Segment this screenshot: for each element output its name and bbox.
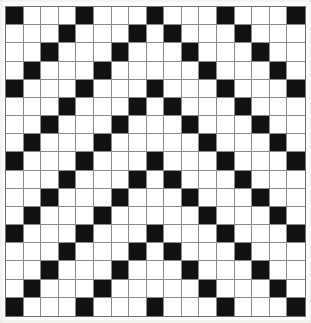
grid-cell (182, 116, 200, 134)
grid-cell (76, 171, 94, 189)
grid-cell (199, 43, 217, 61)
grid-cell (217, 261, 235, 279)
grid-cell (217, 43, 235, 61)
grid-cell (199, 298, 217, 316)
grid-cell (59, 25, 77, 43)
grid-cell (41, 134, 59, 152)
grid-cell (76, 134, 94, 152)
grid-cell (6, 7, 24, 25)
grid-cell (147, 80, 165, 98)
grid-cell (129, 62, 147, 80)
grid-cell (59, 261, 77, 279)
grid-cell (217, 116, 235, 134)
grid-cell (270, 80, 288, 98)
grid-cell (182, 62, 200, 80)
grid-cell (129, 7, 147, 25)
grid-cell (182, 43, 200, 61)
grid-cell (270, 25, 288, 43)
grid-cell (24, 171, 42, 189)
grid-cell (164, 7, 182, 25)
grid-cell (235, 298, 253, 316)
grid-cell (164, 116, 182, 134)
grid-cell (76, 261, 94, 279)
grid-cell (217, 225, 235, 243)
grid-cell (94, 43, 112, 61)
grid-cell (235, 261, 253, 279)
grid-cell (6, 80, 24, 98)
grid-cell (24, 261, 42, 279)
grid-cell (164, 152, 182, 170)
grid-cell (235, 152, 253, 170)
grid-cell (182, 243, 200, 261)
grid-cell (199, 134, 217, 152)
grid-cell (6, 62, 24, 80)
grid-cell (217, 189, 235, 207)
grid-cell (147, 298, 165, 316)
grid-cell (235, 280, 253, 298)
grid-cell (199, 116, 217, 134)
grid-cell (129, 207, 147, 225)
grid-cell (59, 189, 77, 207)
grid-cell (41, 243, 59, 261)
grid-cell (94, 280, 112, 298)
grid-cell (199, 189, 217, 207)
grid-cell (217, 25, 235, 43)
grid-cell (199, 225, 217, 243)
grid-cell (287, 43, 305, 61)
grid-cell (24, 134, 42, 152)
grid-cell (199, 171, 217, 189)
grid-cell (182, 189, 200, 207)
grid-cell (94, 225, 112, 243)
grid-cell (199, 98, 217, 116)
grid-cell (112, 43, 130, 61)
grid-cell (76, 152, 94, 170)
grid-cell (94, 189, 112, 207)
grid-cell (76, 280, 94, 298)
grid-cell (24, 98, 42, 116)
grid-cell (129, 298, 147, 316)
grid-cell (287, 152, 305, 170)
grid-cell (24, 243, 42, 261)
grid-cell (235, 225, 253, 243)
grid-cell (270, 43, 288, 61)
grid-cell (287, 80, 305, 98)
grid-cell (199, 80, 217, 98)
grid-cell (287, 98, 305, 116)
grid-cell (129, 98, 147, 116)
grid-cell (182, 7, 200, 25)
grid-cell (252, 243, 270, 261)
grid-cell (182, 134, 200, 152)
grid-cell (199, 152, 217, 170)
grid-cell (24, 280, 42, 298)
grid-cell (199, 280, 217, 298)
grid-cell (129, 225, 147, 243)
grid-cell (129, 152, 147, 170)
grid-cell (287, 261, 305, 279)
grid-cell (217, 207, 235, 225)
grid-cell (199, 62, 217, 80)
grid-cell (112, 298, 130, 316)
grid-cell (270, 261, 288, 279)
grid-cell (252, 189, 270, 207)
grid-cell (6, 116, 24, 134)
grid-cell (164, 207, 182, 225)
grid-cell (94, 98, 112, 116)
grid-cell (24, 7, 42, 25)
grid-cell (287, 134, 305, 152)
grid-cell (252, 80, 270, 98)
grid-cell (199, 261, 217, 279)
grid-cell (129, 243, 147, 261)
pattern-grid (6, 7, 305, 316)
grid-cell (76, 207, 94, 225)
grid-cell (147, 134, 165, 152)
grid-cell (287, 62, 305, 80)
grid-cell (252, 7, 270, 25)
grid-cell (6, 25, 24, 43)
grid-cell (94, 171, 112, 189)
grid-cell (287, 225, 305, 243)
grid-cell (94, 62, 112, 80)
grid-cell (287, 116, 305, 134)
grid-cell (147, 243, 165, 261)
grid-cell (252, 171, 270, 189)
grid-cell (252, 134, 270, 152)
